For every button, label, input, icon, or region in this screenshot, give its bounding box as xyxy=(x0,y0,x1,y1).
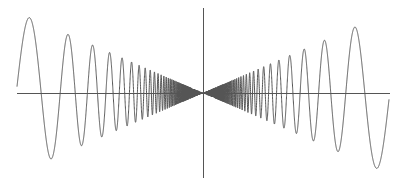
chart-plot xyxy=(0,0,408,187)
